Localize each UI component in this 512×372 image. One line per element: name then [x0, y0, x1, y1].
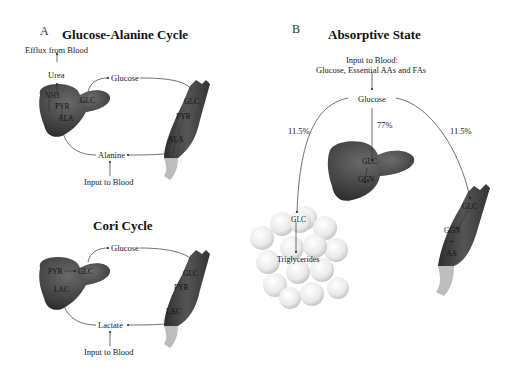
ga-liver-nh3: NH3	[45, 92, 60, 100]
alanine-label: Alanine	[98, 151, 125, 160]
cori-muscle-lac: LAC	[166, 308, 181, 316]
cori-liver-pyr: PYR	[48, 268, 63, 276]
cori-title: Cori Cycle	[93, 218, 153, 234]
cori-glucose-label: Glucose	[111, 244, 139, 253]
b-input-line1: Input to Blood:	[346, 56, 398, 65]
adipose-glc: GLC	[291, 216, 306, 224]
panel-letter-b: B	[292, 22, 300, 37]
b-muscle-ggn: GGN	[444, 227, 460, 235]
diagram-graphics	[0, 0, 512, 372]
ga-liver-ala: ALA	[58, 115, 73, 123]
cori-muscle	[164, 250, 210, 348]
absorptive-title: Absorptive State	[328, 27, 421, 43]
b-muscle	[436, 184, 490, 296]
cori-input-label: Input to Blood	[84, 348, 134, 357]
pct-center: 77%	[377, 121, 393, 130]
pct-right: 11.5%	[450, 127, 472, 136]
ga-liver-glc: GLC	[80, 97, 95, 105]
b-muscle-aa: AA	[446, 250, 457, 258]
cori-muscle-pyr: PYR	[174, 284, 189, 292]
b-muscle-glc: GLC	[462, 203, 477, 211]
adipose-triglycerides: Triglycerides	[277, 256, 319, 264]
b-liver-ggn: GGN	[358, 176, 374, 184]
b-glucose-label: Glucose	[358, 95, 386, 104]
ga-muscle-pyr: PYR	[176, 113, 191, 121]
cori-muscle-glc: GLC	[183, 270, 198, 278]
b-input-line2: Glucose, Essential AAs and FAs	[316, 66, 426, 75]
ga-glucose-label: Glucose	[111, 74, 139, 83]
b-liver	[328, 141, 414, 201]
glucose-alanine-title: Glucose-Alanine Cycle	[62, 27, 188, 43]
pct-left: 11.5%	[288, 127, 310, 136]
ga-muscle-ala: ALA	[168, 136, 183, 144]
ga-input-label: Input to Blood	[84, 178, 134, 187]
cori-liver-lac: LAC	[54, 286, 69, 294]
ga-muscle-glc: GLC	[184, 98, 199, 106]
panel-letter-a: A	[40, 24, 49, 39]
ga-liver-pyr: PYR	[55, 103, 70, 111]
cori-liver-glc: GLC	[78, 268, 93, 276]
b-liver-glc: GLC	[362, 158, 377, 166]
b-muscle-plus: +	[450, 238, 454, 246]
urea-label: Urea	[48, 71, 65, 80]
efflux-label: Efflux from Blood	[25, 46, 88, 55]
ga-muscle	[164, 80, 210, 180]
lactate-label: Lactate	[98, 321, 123, 330]
cori-liver	[39, 257, 110, 310]
